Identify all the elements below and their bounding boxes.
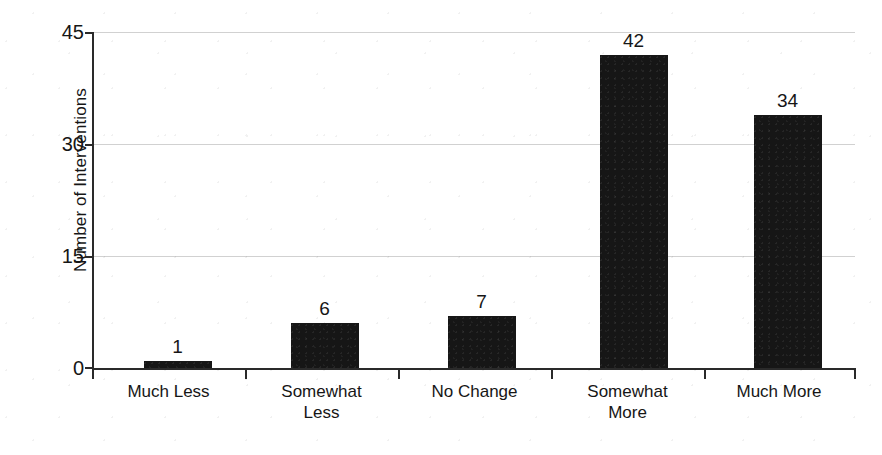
bars-layer: 1 6 7 42 34 <box>92 32 855 368</box>
bar-group-much-more: 34 <box>720 32 855 368</box>
x-label-somewhat-more: Somewhat More <box>551 381 704 423</box>
x-tick-0 <box>92 368 94 379</box>
x-tick-4 <box>704 368 706 379</box>
bar-much-more <box>754 115 822 368</box>
y-tick-label-15: 15 <box>42 246 84 266</box>
x-label-much-more: Much More <box>704 381 854 402</box>
y-axis-line <box>92 32 94 369</box>
bar-no-change <box>448 316 516 368</box>
y-tick-label-30: 30 <box>42 134 84 154</box>
x-label-somewhat-less: Somewhat Less <box>245 381 398 423</box>
bar-group-somewhat-more: 42 <box>566 32 701 368</box>
y-tick-label-45: 45 <box>42 22 84 42</box>
x-label-no-change: No Change <box>398 381 551 402</box>
x-axis-line <box>92 368 856 370</box>
bar-chart: Number of Interventions 45 30 15 0 1 6 <box>0 0 882 455</box>
plot-area: 1 6 7 42 34 <box>92 32 855 368</box>
bar-somewhat-more <box>600 55 668 368</box>
bar-group-much-less: 1 <box>110 32 245 368</box>
bar-somewhat-less <box>291 323 359 368</box>
x-tick-3 <box>551 368 553 379</box>
y-axis-tick-labels: 45 30 15 0 <box>36 0 84 455</box>
y-tick-label-0: 0 <box>42 358 84 378</box>
bar-value-somewhat-more: 42 <box>623 31 644 50</box>
bar-group-no-change: 7 <box>414 32 549 368</box>
x-tick-1 <box>245 368 247 379</box>
bar-value-much-more: 34 <box>777 91 798 110</box>
bar-value-somewhat-less: 6 <box>319 299 330 318</box>
bar-group-somewhat-less: 6 <box>257 32 392 368</box>
bar-value-no-change: 7 <box>476 292 487 311</box>
x-label-much-less: Much Less <box>92 381 245 402</box>
bar-value-much-less: 1 <box>172 337 183 356</box>
x-tick-5 <box>854 368 856 379</box>
x-tick-2 <box>398 368 400 379</box>
bar-much-less <box>144 361 212 368</box>
